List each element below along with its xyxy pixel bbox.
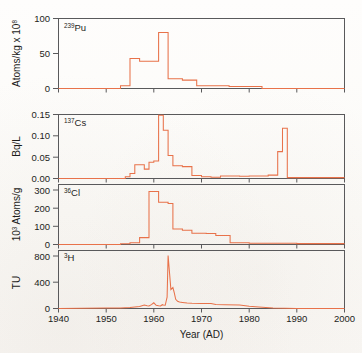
svg-text:Bq/L: Bq/L: [11, 136, 22, 157]
panel-cs137-y-axis-title: Bq/L: [11, 136, 22, 157]
panel-cs137-label: 137Cs: [64, 117, 86, 128]
figure-container: 100 50 0 Atoms/kg x 108 239Pu: [0, 0, 362, 353]
panel-cs137-y-ticks: [53, 115, 59, 179]
panel-pu239-ytick-50: 50: [39, 48, 50, 59]
panel-pu239-data-line: [59, 33, 345, 89]
x-axis-title: Year (AD): [180, 329, 224, 340]
svg-text:TU: TU: [11, 276, 22, 289]
x-axis-tick-labels: 1940 1950 1960 1970 1980 1990 2000: [48, 313, 355, 324]
panel-cs137-frame: [59, 115, 345, 179]
panel-pu239-ytick-100: 100: [34, 13, 50, 24]
xtick-1980: 1980: [239, 313, 260, 324]
panel-cl36-label: 36Cl: [64, 187, 80, 198]
panel-pu239-x-ticks: [59, 89, 345, 93]
panel-pu239-ytick-0: 0: [45, 83, 50, 94]
panel-h3-data-line: [59, 256, 345, 309]
panel-h3-frame: [59, 251, 345, 309]
xtick-1970: 1970: [191, 313, 212, 324]
panel-h3-y-ticks: [53, 256, 59, 309]
panel-pu239-y-axis-title: Atoms/kg x 108: [11, 20, 22, 87]
svg-text:Atoms/kg x 108: Atoms/kg x 108: [11, 20, 22, 87]
panel-cs137-data-line: [59, 115, 345, 178]
panel-cl36-data-line: [59, 191, 345, 244]
panel-cs137-ytick-005: 0.05: [32, 152, 51, 163]
panel-pu239-y-ticks: [53, 19, 59, 89]
multi-panel-chart: 100 50 0 Atoms/kg x 108 239Pu: [0, 0, 362, 353]
panel-cl36-y-ticks: [53, 190, 59, 245]
xtick-2000: 2000: [334, 313, 355, 324]
panel-cs137-ytick-015: 0.15: [32, 109, 51, 120]
panel-pu239-frame: [59, 19, 345, 89]
panel-h3: 800 400 0 TU 3H: [11, 251, 345, 315]
panel-cl36-ytick-0: 0: [45, 239, 50, 250]
panel-pu239-label: 239Pu: [64, 22, 86, 33]
panel-h3-x-ticks: [59, 309, 345, 313]
panel-cl36: 300 200 100 0 103 Atoms/g 36Cl: [11, 185, 345, 251]
panel-cl36-y-axis-title: 103 Atoms/g: [11, 188, 22, 242]
panel-cs137-x-ticks: [59, 179, 345, 183]
xtick-1990: 1990: [286, 313, 307, 324]
svg-text:103 Atoms/g: 103 Atoms/g: [11, 188, 22, 242]
panel-h3-label: 3H: [64, 252, 75, 263]
panel-h3-ytick-800: 800: [34, 251, 50, 262]
xtick-1960: 1960: [143, 313, 164, 324]
panel-cl36-x-ticks: [59, 245, 345, 249]
panel-cl36-frame: [59, 185, 345, 245]
panel-h3-ytick-400: 400: [34, 277, 50, 288]
xtick-1950: 1950: [96, 313, 117, 324]
panel-cs137-ytick-000: 0.00: [32, 173, 51, 184]
panel-pu239: 100 50 0 Atoms/kg x 108 239Pu: [11, 13, 345, 94]
panel-cs137-ytick-010: 0.10: [32, 130, 51, 141]
xtick-1940: 1940: [48, 313, 69, 324]
panel-cl36-ytick-200: 200: [34, 203, 50, 214]
panel-cl36-ytick-100: 100: [34, 221, 50, 232]
panel-cl36-ytick-300: 300: [34, 185, 50, 196]
panel-cs137: 0.15 0.10 0.05 0.00 Bq/L 137Cs: [11, 109, 345, 184]
panel-h3-y-axis-title: TU: [11, 276, 22, 289]
